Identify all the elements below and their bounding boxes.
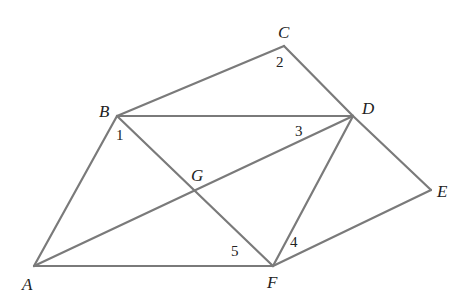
angle-label-4: 4 [290,234,298,250]
vertex-label-d: D [361,99,375,118]
vertex-label-g: G [191,166,203,185]
segment-df [273,116,353,266]
segments-group [34,46,431,266]
vertex-label-a: A [21,275,33,294]
segment-ab [34,116,117,266]
segment-bc [117,46,284,116]
segment-ef [273,190,431,266]
segment-cd [284,46,353,116]
vertex-label-b: B [99,102,110,121]
vertex-label-f: F [266,273,278,292]
segment-bf [117,116,273,266]
segment-de [353,116,431,190]
angle-label-2: 2 [276,54,284,70]
vertex-label-c: C [278,23,290,42]
angle-label-5: 5 [231,243,239,259]
vertex-label-e: E [436,182,448,201]
geometry-diagram: A B C D E F G 1 2 3 4 5 [0,0,473,304]
diagram-svg: A B C D E F G 1 2 3 4 5 [0,0,473,304]
angle-label-1: 1 [116,127,124,143]
angle-label-3: 3 [295,123,303,139]
